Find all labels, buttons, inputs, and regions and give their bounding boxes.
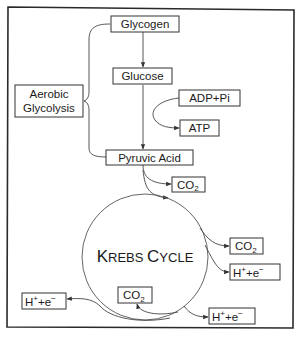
- arrow-pyruvic-to-co2: [143, 165, 171, 184]
- co2-krebs-inner-node: CO2: [118, 287, 152, 304]
- glucose-label: Glucose: [121, 70, 163, 82]
- h-e-krebs-right-node: H++e−: [230, 264, 280, 280]
- arrow-krebs-to-h-bottom: [184, 306, 208, 317]
- h-e-krebs-bottom-node: H++e−: [209, 308, 255, 324]
- aerobic-glycolysis-node: Aerobic Glycolysis: [15, 85, 83, 117]
- glucose-node: Glucose: [113, 68, 172, 84]
- atp-label: ATP: [189, 122, 211, 134]
- h-e-krebs-left-node: H++e−: [22, 293, 66, 309]
- glycogen-label: Glycogen: [121, 18, 170, 30]
- atp-node: ATP: [180, 120, 219, 136]
- arrow-krebs-to-h-right: [205, 245, 229, 272]
- glycogen-node: Glycogen: [111, 16, 179, 32]
- co2-krebs-right-node: CO2: [230, 238, 263, 255]
- adp-pi-node: ADP+Pi: [179, 90, 240, 106]
- glycolysis-krebs-diagram: Glycogen Glucose Aerobic Glycolysis ADP+…: [0, 0, 301, 338]
- pyruvic-acid-node: Pyruvic Acid: [106, 150, 193, 165]
- co2-pyruvic-node: CO2: [172, 177, 205, 193]
- adp-pi-label: ADP+Pi: [189, 92, 230, 104]
- krebs-cycle-label: KREBS CYCLE: [97, 247, 194, 266]
- pyruvic-acid-label: Pyruvic Acid: [118, 152, 181, 164]
- arrow-adp-to-atp: [153, 98, 179, 128]
- aerobic-label: Aerobic: [30, 88, 69, 100]
- arrow-krebs-to-co2-inner: [137, 304, 178, 314]
- aerobic-glycolysis-brace: [84, 24, 110, 157]
- glycolysis-label: Glycolysis: [23, 102, 75, 114]
